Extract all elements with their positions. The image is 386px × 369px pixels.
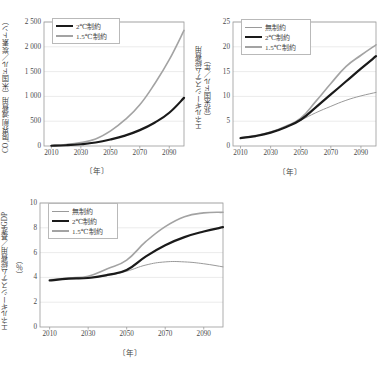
legend-item-two-deg: 2℃制約	[52, 216, 113, 226]
x-tick-label: 2030	[74, 149, 88, 157]
chart-panel-energy-system-total-cost: エネルギーシステム総費用 （兆米国ドル／年） 無制約 2℃制約 1.5℃制約 〔…	[193, 0, 386, 185]
x-tick-label: 2070	[324, 149, 338, 157]
legend-label-unconstrained: 無制約	[265, 22, 286, 32]
legend-label-unconstrained: 無制約	[72, 206, 93, 216]
panel-b-legend: 無制約 2℃制約 1.5℃制約	[241, 19, 311, 55]
legend-item-unconstrained: 無制約	[245, 22, 306, 32]
legend-swatch-one-five-deg	[52, 230, 69, 232]
panel-c-legend: 無制約 2℃制約 1.5℃制約	[48, 203, 118, 239]
panel-a-x-axis-label: 〔年〕	[0, 165, 193, 176]
x-tick-label: 2010	[44, 149, 58, 157]
y-tick-label: 0	[0, 142, 41, 150]
legend-item-one-five-deg: 1.5℃制約	[245, 42, 306, 52]
x-tick-label: 2010	[233, 149, 247, 157]
y-tick-label: 500	[0, 117, 41, 125]
y-tick-label: 20	[193, 43, 230, 51]
legend-label-one-five-deg: 1.5℃制約	[265, 42, 296, 52]
legend-swatch-two-deg	[245, 36, 262, 38]
legend-label-two-deg: 2℃制約	[265, 32, 290, 42]
legend-item-two-deg: 2℃制約	[56, 21, 115, 31]
legend-label-one-five-deg: 1.5℃制約	[72, 226, 103, 236]
x-tick-label: 2090	[162, 149, 176, 157]
legend-item-two-deg: 2℃制約	[245, 32, 306, 42]
y-tick-label: 0	[0, 323, 37, 331]
legend-swatch-two-deg	[56, 25, 73, 27]
x-tick-label: 2030	[81, 330, 95, 338]
y-tick-label: 5	[193, 117, 230, 125]
y-tick-label: 2	[0, 298, 37, 306]
legend-swatch-two-deg	[52, 220, 69, 222]
legend-swatch-one-five-deg	[56, 35, 73, 37]
x-tick-label: 2070	[158, 330, 172, 338]
legend-swatch-one-five-deg	[245, 46, 262, 48]
legend-item-one-five-deg: 1.5℃制約	[52, 226, 113, 236]
y-tick-label: 2 500	[0, 18, 41, 26]
y-tick-label: 15	[193, 68, 230, 76]
y-tick-label: 1 000	[0, 92, 41, 100]
y-tick-label: 25	[193, 18, 230, 26]
chart-panel-cost-to-gdp-ratio: エネルギーシステム総費用／基準GDP （％） 無制約 2℃制約 1.5℃制約 〔…	[0, 185, 290, 369]
y-tick-label: 6	[0, 249, 37, 257]
legend-swatch-unconstrained	[245, 27, 262, 28]
panel-c-plot	[0, 185, 290, 369]
x-tick-label: 2090	[354, 149, 368, 157]
legend-label-two-deg: 2℃制約	[72, 216, 97, 226]
y-tick-label: 1 500	[0, 68, 41, 76]
y-tick-label: 10	[193, 92, 230, 100]
x-tick-label: 2070	[133, 149, 147, 157]
legend-item-one-five-deg: 1.5℃制約	[56, 31, 115, 41]
x-tick-label: 2010	[42, 330, 56, 338]
x-tick-label: 2030	[263, 149, 277, 157]
y-tick-label: 10	[0, 199, 37, 207]
x-tick-label: 2050	[119, 330, 133, 338]
x-tick-label: 2050	[103, 149, 117, 157]
panel-b-x-axis-label: 〔年〕	[193, 166, 386, 177]
x-tick-label: 2090	[197, 330, 211, 338]
legend-label-one-five-deg: 1.5℃制約	[76, 31, 107, 41]
figure-root: CO₂限界削減費用（米国ドル／炭素トン） 2℃制約 1.5℃制約 〔年〕 050…	[0, 0, 386, 369]
legend-swatch-unconstrained	[52, 211, 69, 212]
panel-c-x-axis-label: 〔年〕	[30, 347, 230, 358]
panel-a-legend: 2℃制約 1.5℃制約	[52, 18, 120, 44]
y-tick-label: 8	[0, 224, 37, 232]
legend-item-unconstrained: 無制約	[52, 206, 113, 216]
chart-panel-co2-marginal-abatement-cost: CO₂限界削減費用（米国ドル／炭素トン） 2℃制約 1.5℃制約 〔年〕 050…	[0, 0, 193, 185]
y-tick-label: 4	[0, 273, 37, 281]
y-tick-label: 0	[193, 142, 230, 150]
x-tick-label: 2050	[294, 149, 308, 157]
y-tick-label: 2 000	[0, 43, 41, 51]
legend-label-two-deg: 2℃制約	[76, 21, 101, 31]
